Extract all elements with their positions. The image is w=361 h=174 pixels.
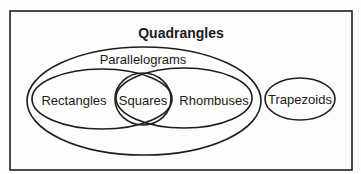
trapezoids-label: Trapezoids [268,92,332,107]
squares-label: Squares [119,93,168,108]
parallelograms-label: Parallelograms [100,52,187,67]
quadrangles-title: Quadrangles [138,25,224,41]
quadrangles-venn-diagram: Quadrangles Parallelograms Rectangles Sq… [0,0,361,174]
rhombuses-label: Rhombuses [179,93,249,108]
rectangles-label: Rectangles [41,93,107,108]
